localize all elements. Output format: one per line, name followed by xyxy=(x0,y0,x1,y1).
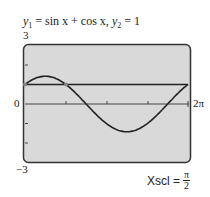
xscl-label: Xscl = π2 xyxy=(147,170,190,191)
graph-screen xyxy=(0,0,210,197)
